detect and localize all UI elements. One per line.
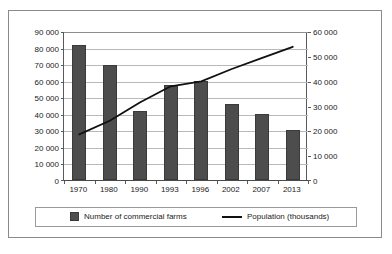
y-axis-right-tick-label: 30 000 — [313, 103, 359, 112]
legend-label-population: Population (thousands) — [247, 212, 329, 221]
y-axis-right-tick — [308, 32, 311, 33]
chart-plot-wrapper: 90 000 80 000 70 000 60 000 50 000 40 00… — [9, 11, 383, 239]
legend-item-population: Population (thousands) — [222, 212, 329, 221]
population-line-series — [64, 32, 308, 181]
chart-frame: 90 000 80 000 70 000 60 000 50 000 40 00… — [8, 10, 382, 238]
y-axis-left-tick-label: 0 — [15, 177, 59, 186]
x-axis-tick — [125, 181, 126, 184]
y-axis-right-tick-label: 20 000 — [313, 127, 359, 136]
x-axis-label-2013: 2013 — [272, 185, 312, 194]
y-axis-left-tick-label: 60 000 — [15, 78, 59, 87]
legend-item-commercial-farms: Number of commercial farms — [70, 212, 187, 221]
population-line — [79, 47, 293, 135]
y-axis-left-tick-label: 90 000 — [15, 28, 59, 37]
x-axis-tick — [95, 181, 96, 184]
y-axis-left-tick-label: 10 000 — [15, 160, 59, 169]
y-axis-left-tick-label: 30 000 — [15, 127, 59, 136]
y-axis-right-tick — [308, 131, 311, 132]
x-axis-tick — [308, 181, 309, 184]
y-axis-right-tick — [308, 156, 311, 157]
x-axis-tick — [186, 181, 187, 184]
y-axis-right-tick-label: 0 — [313, 177, 359, 186]
y-axis-right-tick — [308, 82, 311, 83]
x-axis-tick — [247, 181, 248, 184]
y-axis-right-tick-label: 50 000 — [313, 53, 359, 62]
y-axis-left-tick-label: 40 000 — [15, 111, 59, 120]
plot-area — [63, 32, 307, 181]
y-axis-right-tick-label: 40 000 — [313, 78, 359, 87]
y-axis-right-tick-label: 10 000 — [313, 152, 359, 161]
y-axis-right-tick-label: 60 000 — [313, 28, 359, 37]
y-axis-left-tick-label: 70 000 — [15, 61, 59, 70]
legend-label-commercial-farms: Number of commercial farms — [84, 212, 187, 221]
y-axis-left-tick-label: 80 000 — [15, 45, 59, 54]
line-swatch-icon — [222, 216, 242, 218]
x-axis-tick — [217, 181, 218, 184]
bar-swatch-icon — [70, 212, 79, 221]
x-axis-tick — [64, 181, 65, 184]
chart-legend: Number of commercial farms Population (t… — [35, 207, 357, 227]
x-axis-tick — [278, 181, 279, 184]
y-axis-right-tick — [308, 107, 311, 108]
y-axis-left-tick-label: 50 000 — [15, 94, 59, 103]
x-axis-tick — [156, 181, 157, 184]
y-axis-right-tick — [308, 57, 311, 58]
y-axis-left-tick-label: 20 000 — [15, 144, 59, 153]
